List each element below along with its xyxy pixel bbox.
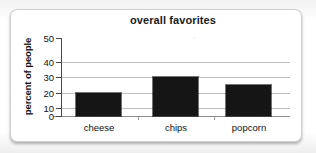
y-tick-mark-50 [56, 38, 62, 39]
chart-card: overall favorites percent of people 50 4… [10, 9, 302, 142]
gridline-40 [62, 62, 290, 63]
scanned-page: overall favorites percent of people 50 4… [0, 0, 316, 153]
y-tick-mark-20 [56, 93, 62, 94]
x-axis-line [53, 116, 290, 117]
y-tick-label-40: 40 [32, 58, 54, 68]
x-axis-label-chips: chips [138, 122, 214, 133]
y-tick-mark-40 [56, 62, 62, 63]
x-tick-mark-2 [214, 116, 215, 120]
bar-popcorn [226, 85, 271, 116]
bar-chips [153, 77, 198, 116]
y-tick-label-0: 0 [32, 112, 54, 122]
x-tick-mark-1 [138, 116, 139, 120]
y-tick-mark-10 [56, 108, 62, 109]
y-tick-mark-30 [56, 77, 62, 78]
y-tick-mark-0 [56, 116, 62, 117]
bar-cheese [76, 93, 121, 116]
bar-chart: overall favorites percent of people 50 4… [10, 9, 302, 142]
y-tick-label-30: 30 [32, 73, 54, 83]
x-axis-label-cheese: cheese [61, 122, 137, 133]
x-axis-label-popcorn: popcorn [211, 122, 287, 133]
y-tick-label-50: 50 [32, 34, 54, 44]
y-tick-label-20: 20 [32, 89, 54, 99]
y-axis-label: percent of people [22, 27, 33, 127]
chart-title: overall favorites [10, 14, 302, 26]
